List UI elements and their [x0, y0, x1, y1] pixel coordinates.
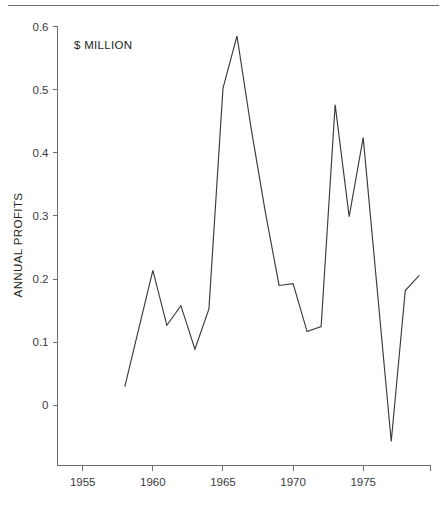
y-tick-label: 0.4 [33, 147, 50, 159]
unit-annotation: $ MILLION [74, 39, 132, 51]
figure-container: 00.10.20.30.40.50.6 19551960196519701975… [0, 0, 447, 507]
x-tick-labels: 19551960196519701975 [70, 476, 376, 488]
x-tick-label: 1970 [280, 476, 306, 488]
series-line-annual-profits [125, 36, 419, 442]
y-tick-label: 0.6 [33, 21, 49, 33]
line-chart-plot: 00.10.20.30.40.50.6 19551960196519701975… [0, 0, 447, 507]
y-tick-label: 0 [42, 399, 48, 411]
data-series-group [125, 36, 419, 442]
x-tick-label: 1965 [210, 476, 236, 488]
y-tick-label: 0.3 [33, 210, 49, 222]
x-tick-label: 1975 [350, 476, 376, 488]
y-tick-label: 0.1 [33, 336, 49, 348]
x-tick-label: 1955 [70, 476, 96, 488]
chart-axes [58, 27, 431, 466]
y-tick-label: 0.5 [33, 84, 49, 96]
y-tick-label: 0.2 [33, 273, 49, 285]
clipped-footer-text [18, 495, 238, 504]
x-tick-label: 1960 [140, 476, 166, 488]
y-tick-labels: 00.10.20.30.40.50.6 [33, 21, 50, 412]
y-axis-title: ANNUAL PROFITS [12, 193, 24, 298]
